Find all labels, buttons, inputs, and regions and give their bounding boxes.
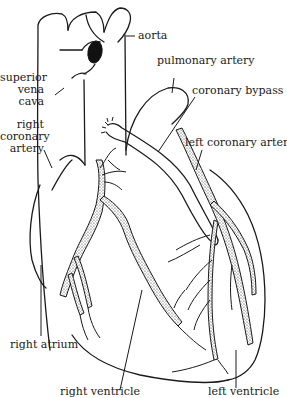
label-right-ventricle: right ventricle — [60, 386, 140, 398]
left-coronary-artery-shape — [168, 128, 256, 374]
label-right-atrium: right atrium — [10, 339, 78, 351]
label-pulmonary-artery: pulmonary artery — [157, 55, 255, 67]
label-coronary-bypass: coronary bypass — [192, 85, 283, 97]
label-right-coronary-artery-line3: artery — [0, 143, 44, 155]
label-left-ventricle: left ventricle — [208, 386, 279, 398]
heart-diagram: aorta superior vena cava right coronary … — [0, 0, 287, 398]
label-superior-vena-cava-line3: cava — [0, 96, 44, 108]
right-coronary-artery-shape — [60, 148, 206, 350]
label-aorta: aorta — [138, 30, 167, 42]
label-left-coronary-artery: left coronary artery — [185, 137, 287, 149]
pulmonary-artery-shape — [126, 88, 188, 150]
